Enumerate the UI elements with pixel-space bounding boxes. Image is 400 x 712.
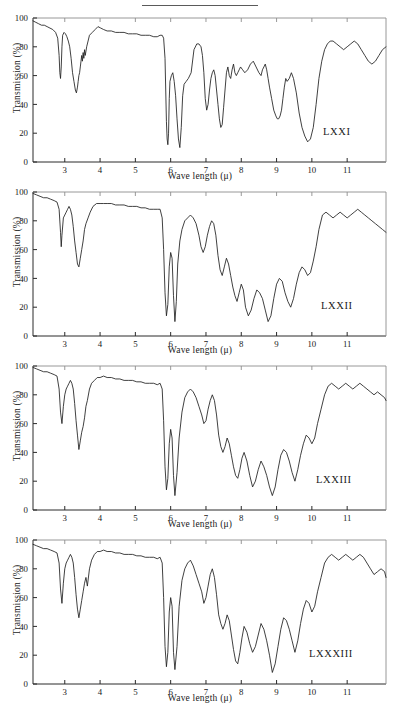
x-axis-label-2: Wave length (μ)	[0, 345, 400, 355]
y-axis-label-3: Transmission (%)	[12, 346, 26, 506]
panel-label-1: LXXI	[323, 126, 350, 137]
spectrum-plot-1: 02040608010034567891011	[0, 10, 400, 188]
plot-frame-2	[33, 192, 386, 336]
top-rule-decoration	[142, 5, 258, 6]
spectrum-panel-3: 02040608010034567891011 Transmission (%)…	[0, 358, 400, 536]
spectrum-plot-2: 02040608010034567891011	[0, 184, 400, 362]
y-axis-label-4: Transmission (%)	[12, 520, 26, 680]
spectrum-panel-4: 02040608010034567891011 Transmission (%)…	[0, 532, 400, 712]
x-axis-label-1: Wave length (μ)	[0, 171, 400, 181]
plot-axes-2	[33, 192, 386, 336]
x-axis-label-3: Wave length (μ)	[0, 519, 400, 529]
spectrum-plot-3: 02040608010034567891011	[0, 358, 400, 536]
panel-label-4: LXXXIII	[309, 648, 353, 659]
spectrum-panel-1: 02040608010034567891011 Transmission (%)…	[0, 10, 400, 188]
y-tick-label-0: 0	[24, 505, 29, 515]
panel-label-2: LXXII	[321, 300, 353, 311]
y-axis-label-2: Transmission (%)	[12, 172, 26, 332]
spectrum-plot-4: 02040608010034567891011	[0, 532, 400, 710]
x-axis-label-4: Wave length (μ)	[0, 693, 400, 703]
y-tick-label-0: 0	[24, 679, 29, 689]
plot-frame-4	[33, 540, 386, 684]
y-tick-label-0: 0	[24, 157, 29, 167]
spectrum-panel-2: 02040608010034567891011 Transmission (%)…	[0, 184, 400, 362]
plot-axes-4	[33, 540, 386, 684]
plot-axes-3	[33, 366, 386, 510]
y-tick-label-0: 0	[24, 331, 29, 341]
y-axis-label-1: Transmission (%)	[12, 0, 26, 158]
figure-plate: 02040608010034567891011 Transmission (%)…	[0, 0, 400, 712]
panel-label-3: LXXIII	[316, 474, 352, 485]
plot-frame-3	[33, 366, 386, 510]
